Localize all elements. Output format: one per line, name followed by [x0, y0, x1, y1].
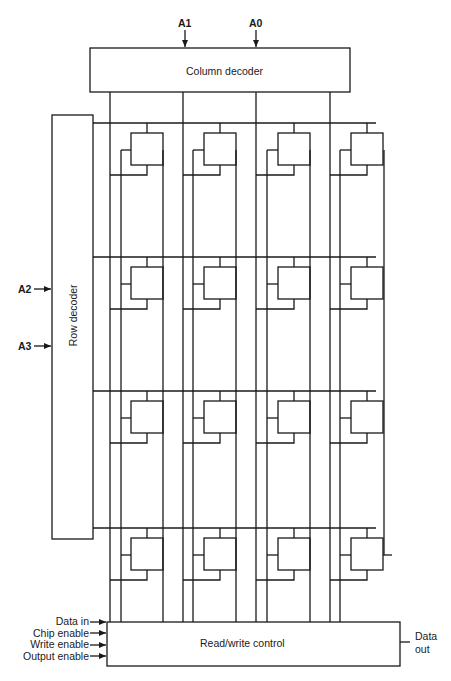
data-out-label-line2: out: [415, 644, 430, 655]
data-out-label-line1: Data: [415, 631, 437, 642]
cell-r2-c1: [110, 257, 163, 309]
cell-r4-c2: [183, 528, 236, 580]
data-in-label: Data in: [56, 616, 89, 627]
rw-control-label: Read/write control: [200, 638, 285, 649]
column-decoder-label: Column decoder: [186, 66, 263, 77]
cell-r3-c1: [110, 391, 163, 443]
cell-r4-c3: [256, 528, 310, 580]
cell-r3-c3: [256, 391, 310, 443]
cell-r1-c2: [183, 123, 236, 175]
cell-r3-c4: [330, 391, 383, 443]
memory-cells: [110, 123, 392, 580]
cell-r4-c4: [330, 528, 392, 580]
chip-enable-label: Chip enable: [33, 628, 89, 639]
a1-label: A1: [178, 18, 191, 29]
cell-r4-c1: [110, 528, 163, 580]
cell-r2-c4: [330, 257, 383, 309]
output-enable-label: Output enable: [23, 651, 89, 662]
row-lines: [93, 123, 376, 528]
cell-r3-c2: [183, 391, 236, 443]
row-decoder-label: Row decoder: [68, 286, 79, 346]
a3-label: A3: [18, 341, 31, 352]
write-enable-label: Write enable: [30, 639, 89, 650]
column-lines: [110, 92, 384, 622]
cell-r2-c2: [183, 257, 236, 309]
cell-r1-c4: [330, 123, 383, 175]
a2-label: A2: [18, 284, 31, 295]
a0-label: A0: [249, 18, 262, 29]
cell-r2-c3: [256, 257, 310, 309]
cell-r1-c3: [256, 123, 310, 175]
cell-r1-c1: [110, 123, 163, 175]
